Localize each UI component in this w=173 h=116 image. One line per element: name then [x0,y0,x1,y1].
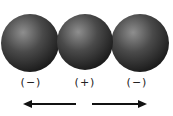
diagram-canvas [0,0,173,116]
arrow-right-icon [92,100,147,108]
sphere-right [111,14,169,72]
arrow-left-icon [23,100,76,108]
charge-label-right: (−) [122,76,152,89]
charge-label-left: (−) [16,76,46,89]
sphere-left [1,14,59,72]
sphere-middle [57,14,113,70]
charge-label-middle: (+) [70,76,100,89]
